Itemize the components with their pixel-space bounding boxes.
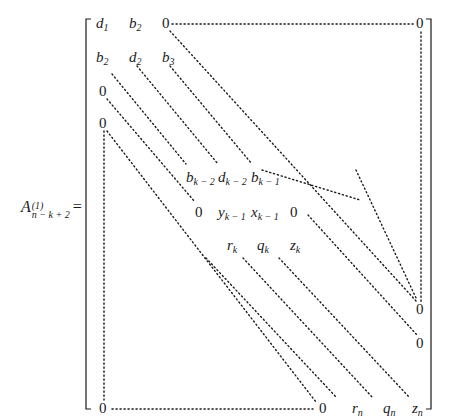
matrix-name: A bbox=[21, 198, 31, 215]
entry-zero: 0 bbox=[99, 84, 107, 99]
entry-d-k-2: dk − 2 bbox=[218, 170, 247, 187]
equals-sign: = bbox=[73, 198, 82, 215]
entry-z-k: zk bbox=[290, 238, 300, 255]
entry-b2: b2 bbox=[129, 16, 142, 33]
entry-zero: 0 bbox=[99, 401, 107, 416]
entry-zero: 0 bbox=[416, 336, 424, 351]
entry-zero: 0 bbox=[195, 205, 203, 220]
matrix-subscript: n − k + 2 bbox=[32, 210, 70, 219]
entry-d2: d2 bbox=[129, 50, 142, 67]
entry-zero: 0 bbox=[162, 16, 170, 31]
entry-x-k-1: xk − 1 bbox=[251, 205, 279, 222]
entry-zero: 0 bbox=[319, 401, 327, 416]
left-bracket bbox=[86, 19, 91, 409]
entry-b-k-1: bk − 1 bbox=[251, 170, 280, 187]
entry-zero: 0 bbox=[416, 16, 424, 31]
right-bracket bbox=[426, 19, 431, 409]
entry-zero: 0 bbox=[99, 116, 107, 131]
entry-z-n: zn bbox=[412, 401, 423, 416]
entry-zero: 0 bbox=[290, 205, 298, 220]
entry-q-k: qk bbox=[257, 238, 269, 255]
entry-d1: d1 bbox=[96, 16, 109, 33]
entry-r-n: rn bbox=[352, 401, 363, 416]
entry-y-k-1: yk − 1 bbox=[218, 205, 246, 222]
entry-q-n: qn bbox=[383, 401, 396, 416]
matrix-label: A(1)n − k + 2= bbox=[21, 198, 82, 219]
entry-zero: 0 bbox=[416, 302, 424, 317]
entry-r-k: rk bbox=[227, 238, 237, 255]
entry-b3: b3 bbox=[162, 50, 175, 67]
entry-b-k-2: bk − 2 bbox=[186, 170, 215, 187]
entry-b2: b2 bbox=[96, 50, 109, 67]
